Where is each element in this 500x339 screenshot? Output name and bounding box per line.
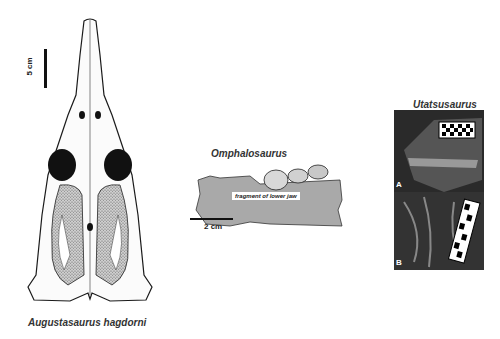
label-utatsusaurus: Utatsusaurus	[413, 99, 477, 110]
omphalosaurus-inner-label: fragment of lower jaw	[232, 192, 300, 200]
label-augustasaurus: Augustasaurus hagdorni	[28, 317, 146, 328]
augustasaurus-skull-drawing	[20, 15, 160, 315]
subpanel-label-a: A	[396, 180, 402, 189]
subpanel-label-b: B	[396, 258, 402, 267]
scale-bar-5cm	[44, 49, 47, 88]
scale-label-5cm: 5 cm	[25, 57, 34, 75]
utatsusaurus-photo-a: A	[394, 110, 484, 192]
scale-bar-2cm	[190, 218, 233, 220]
utatsusaurus-photo-b: B	[394, 192, 484, 270]
scale-label-2cm: 2 cm	[204, 222, 222, 231]
